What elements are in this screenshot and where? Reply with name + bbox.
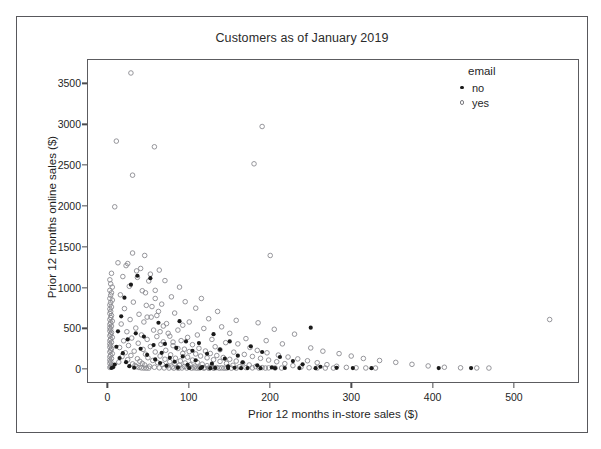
x-tick-label-100: 100	[180, 391, 198, 403]
x-tick-mark-200	[269, 383, 270, 388]
x-axis-tick-marks	[87, 383, 579, 388]
x-tick-label-500: 500	[505, 391, 523, 403]
x-tick-mark-0	[107, 383, 108, 388]
legend-label-no: no	[472, 82, 484, 94]
legend-item-yes[interactable]: yes	[456, 95, 495, 110]
x-tick-label-200: 200	[261, 391, 279, 403]
legend: email no yes	[448, 61, 505, 116]
y-tick-label-1000: 1000	[58, 282, 81, 294]
x-tick-label-300: 300	[343, 391, 361, 403]
x-axis-title: Prior 12 months in-store sales ($)	[87, 408, 579, 420]
figure-frame: Customers as of January 2019 Prior 12 mo…	[16, 16, 588, 433]
series-no	[109, 274, 473, 371]
x-tick-mark-300	[351, 383, 352, 388]
y-tick-label-3500: 3500	[58, 77, 81, 89]
x-axis-tick-labels: 0100200300400500	[87, 391, 579, 407]
y-tick-label-3000: 3000	[58, 118, 81, 130]
legend-title: email	[456, 65, 495, 77]
y-tick-label-500: 500	[63, 322, 81, 334]
chart-title: Customers as of January 2019	[17, 31, 587, 45]
x-tick-mark-400	[432, 383, 433, 388]
x-tick-mark-100	[188, 383, 189, 388]
y-tick-label-0: 0	[75, 363, 81, 375]
y-tick-label-2500: 2500	[58, 159, 81, 171]
x-tick-mark-500	[513, 383, 514, 388]
x-tick-label-0: 0	[104, 391, 110, 403]
y-tick-label-1500: 1500	[58, 241, 81, 253]
y-axis-tick-labels: 0500100015002000250030003500	[51, 59, 81, 383]
legend-marker-open-circle-icon	[456, 100, 468, 105]
legend-item-no[interactable]: no	[456, 80, 495, 95]
x-tick-label-400: 400	[424, 391, 442, 403]
legend-marker-filled-dot-icon	[456, 86, 468, 89]
y-tick-label-2000: 2000	[58, 200, 81, 212]
legend-label-yes: yes	[472, 97, 489, 109]
